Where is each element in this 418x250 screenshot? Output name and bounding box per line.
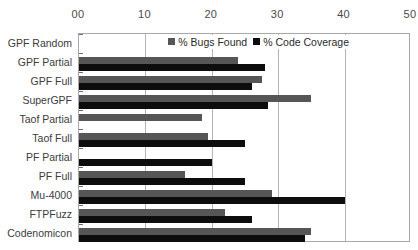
bar-group bbox=[79, 72, 409, 91]
plot-area bbox=[78, 33, 410, 242]
x-tick-label: 50 bbox=[404, 8, 417, 20]
bar-code-coverage bbox=[79, 140, 245, 147]
bar-code-coverage bbox=[79, 235, 305, 242]
bar-code-coverage bbox=[79, 102, 268, 109]
legend-entry-code-coverage: % Code Coverage bbox=[253, 36, 349, 48]
x-tick-label: 00 bbox=[72, 8, 85, 20]
y-category-label: GPF Partial bbox=[18, 56, 72, 68]
y-category-label: GPF Full bbox=[31, 75, 72, 87]
bar-group bbox=[79, 224, 409, 243]
bar-bugs-found bbox=[79, 95, 311, 102]
y-category-label: SuperGPF bbox=[22, 94, 72, 106]
y-axis-category-labels: GPF RandomGPF PartialGPF FullSuperGPFTao… bbox=[0, 33, 76, 242]
bar-bugs-found bbox=[79, 133, 208, 140]
bar-bugs-found bbox=[79, 171, 185, 178]
bar-rows bbox=[79, 34, 409, 241]
bar-bugs-found bbox=[79, 228, 311, 235]
bar-code-coverage bbox=[79, 159, 212, 166]
legend-swatch-icon bbox=[253, 38, 260, 45]
bar-code-coverage bbox=[79, 197, 345, 204]
y-category-label: Mu-4000 bbox=[31, 189, 72, 201]
bar-group bbox=[79, 91, 409, 110]
y-category-label: FTPFuzz bbox=[29, 208, 72, 220]
y-category-label: Taof Full bbox=[32, 132, 72, 144]
y-category-label: Taof Partial bbox=[19, 113, 72, 125]
bar-group bbox=[79, 148, 409, 167]
bar-bugs-found bbox=[79, 76, 262, 83]
x-axis-tick-labels: 001020304050 bbox=[0, 8, 418, 24]
y-category-label: PF Partial bbox=[26, 151, 72, 163]
chart-legend: % Bugs Found % Code Coverage bbox=[164, 35, 353, 49]
bar-group bbox=[79, 110, 409, 129]
bar-bugs-found bbox=[79, 190, 272, 197]
bar-chart: 001020304050 GPF RandomGPF PartialGPF Fu… bbox=[0, 0, 418, 250]
bar-group bbox=[79, 205, 409, 224]
bar-code-coverage bbox=[79, 178, 245, 185]
bar-bugs-found bbox=[79, 114, 202, 121]
x-tick-label: 30 bbox=[271, 8, 284, 20]
legend-swatch-icon bbox=[168, 38, 175, 45]
bar-group bbox=[79, 186, 409, 205]
bar-bugs-found bbox=[79, 209, 225, 216]
y-category-label: Codenomicon bbox=[7, 227, 72, 239]
y-category-label: PF Full bbox=[39, 170, 72, 182]
x-tick-label: 10 bbox=[138, 8, 151, 20]
bar-group bbox=[79, 167, 409, 186]
bar-bugs-found bbox=[79, 57, 238, 64]
bar-group bbox=[79, 129, 409, 148]
bar-code-coverage bbox=[79, 64, 265, 71]
legend-label: % Bugs Found bbox=[178, 36, 247, 48]
x-tick-label: 20 bbox=[204, 8, 217, 20]
bar-code-coverage bbox=[79, 216, 252, 223]
y-category-label: GPF Random bbox=[8, 37, 72, 49]
bar-group bbox=[79, 53, 409, 72]
x-tick-label: 40 bbox=[337, 8, 350, 20]
legend-entry-bugs-found: % Bugs Found bbox=[168, 36, 247, 48]
bar-code-coverage bbox=[79, 83, 252, 90]
legend-label: % Code Coverage bbox=[263, 36, 349, 48]
